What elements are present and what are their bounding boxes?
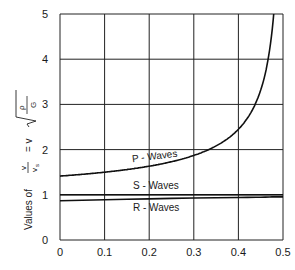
y-label-prefix: Values of (23, 189, 34, 230)
chart: 00.10.20.30.40.5012345 P - Waves S - Wav… (0, 0, 295, 270)
y-tick-label: 0 (42, 234, 48, 246)
x-tick-label: 0 (57, 246, 63, 258)
y-axis-label: Values of v v s = v ρ G (16, 90, 40, 230)
y-label-sqrt-num: ρ (17, 105, 26, 110)
series-layer (60, 14, 283, 201)
x-tick-label: 0.1 (97, 246, 112, 258)
x-tick-label: 0.2 (142, 246, 157, 258)
y-tick-label: 3 (42, 98, 48, 110)
x-tick-label: 0.4 (231, 246, 246, 258)
y-tick-label: 5 (42, 8, 48, 20)
x-tick-label: 0.5 (275, 246, 290, 258)
tick-labels: 00.10.20.30.40.5012345 (42, 8, 291, 258)
y-label-frac-num: v (19, 166, 28, 170)
y-tick-label: 1 (42, 189, 48, 201)
label-s-waves: S - Waves (133, 180, 179, 191)
y-label-eq: = v (23, 138, 34, 152)
label-r-waves: R - Waves (133, 202, 179, 213)
y-tick-label: 2 (42, 144, 48, 156)
y-label-frac-den-sub: s (34, 164, 40, 167)
y-tick-label: 4 (42, 53, 48, 65)
y-label-frac-den: v (30, 168, 39, 172)
x-tick-label: 0.3 (186, 246, 201, 258)
series-r-waves (60, 197, 283, 201)
y-label-sqrt-den: G (29, 102, 38, 108)
